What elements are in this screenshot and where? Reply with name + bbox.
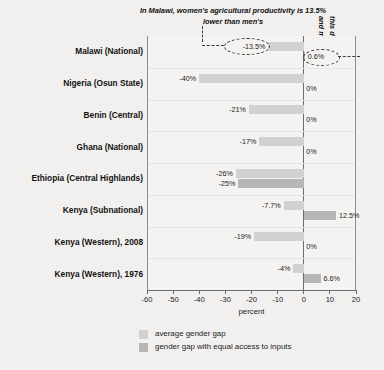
x-axis-tick-label: 20 — [344, 295, 368, 304]
row-separator — [148, 68, 355, 69]
x-axis-tick-label: -40 — [187, 295, 211, 304]
bar-value-label: 0% — [306, 84, 316, 93]
category-label: Kenya (Subnational) — [0, 205, 143, 215]
bar-equal-access — [304, 274, 321, 283]
bar-value-label: 6.6% — [323, 274, 339, 283]
x-axis-tick — [277, 290, 278, 294]
bar-value-label: 0% — [306, 115, 316, 124]
annotation-top: In Malawi, women's agricultural producti… — [133, 6, 333, 27]
legend-swatch-light — [139, 330, 148, 339]
row-separator — [148, 131, 355, 132]
bar-equal-access — [304, 211, 337, 220]
category-label: Benin (Central) — [0, 110, 143, 120]
x-axis-tick — [147, 290, 148, 294]
x-axis-tick — [251, 290, 252, 294]
bar-value-label: 12.5% — [339, 211, 359, 220]
category-label: Kenya (Western), 1976 — [0, 269, 143, 279]
row-separator — [148, 227, 355, 228]
category-label: Nigeria (Osun State) — [0, 78, 143, 88]
x-axis-tick — [173, 290, 174, 294]
category-label: Kenya (Western), 2008 — [0, 237, 143, 247]
category-label: Malawi (National) — [0, 46, 143, 56]
bar-value-label: 0% — [306, 242, 316, 251]
category-label: Ethiopia (Central Highlands) — [0, 173, 143, 183]
bar-value-label: -26% — [194, 169, 233, 178]
legend-swatch-dark — [139, 343, 148, 352]
x-axis-tick — [329, 290, 330, 294]
bar-average-gender-gap — [284, 201, 304, 210]
bar-value-label: -19% — [212, 232, 251, 241]
bar-average-gender-gap — [249, 105, 304, 114]
bar-value-label: -40% — [157, 74, 196, 83]
row-separator — [148, 100, 355, 101]
bar-value-label: -7.7% — [242, 201, 281, 210]
chart-container: In Malawi, women's agricultural producti… — [0, 0, 384, 370]
x-axis-tick — [303, 290, 304, 294]
row-separator — [148, 195, 355, 196]
x-axis-tick — [356, 290, 357, 294]
legend-label-average-gender-gap: average gender gap — [155, 329, 226, 338]
callout-leader-horizontal — [202, 45, 224, 46]
x-axis-tick-label: -50 — [161, 295, 185, 304]
bar-value-label: 0% — [306, 147, 316, 156]
bar-value-label: -21% — [207, 105, 246, 114]
callout-leader-vertical — [202, 26, 203, 42]
row-separator — [148, 163, 355, 164]
x-axis-tick-label: -20 — [240, 295, 264, 304]
bar-average-gender-gap — [268, 42, 303, 51]
callout-ellipse-0-6 — [303, 49, 340, 66]
bar-average-gender-gap — [293, 264, 303, 273]
x-axis-tick-label: 10 — [318, 295, 342, 304]
category-label: Ghana (National) — [0, 142, 143, 152]
bar-value-label: -17% — [217, 137, 256, 146]
legend-label-equal-access: gender gap with equal access to inputs — [155, 342, 291, 351]
x-axis-tick-label: -10 — [266, 295, 290, 304]
x-axis-tick-label: 0 — [292, 295, 316, 304]
row-separator — [148, 258, 355, 259]
x-axis-tick — [199, 290, 200, 294]
bar-average-gender-gap — [236, 169, 304, 178]
callout-leader-horizontal-right — [338, 56, 360, 57]
x-axis-tick — [225, 290, 226, 294]
axis-title: percent — [147, 307, 356, 316]
bar-average-gender-gap — [199, 74, 304, 83]
bar-average-gender-gap — [254, 232, 304, 241]
bar-value-label: -4% — [251, 264, 290, 273]
x-axis-tick-label: -60 — [135, 295, 159, 304]
bar-equal-access — [238, 179, 303, 188]
bar-average-gender-gap — [259, 137, 303, 146]
bar-value-label: -25% — [196, 179, 235, 188]
x-axis-tick-label: -30 — [213, 295, 237, 304]
